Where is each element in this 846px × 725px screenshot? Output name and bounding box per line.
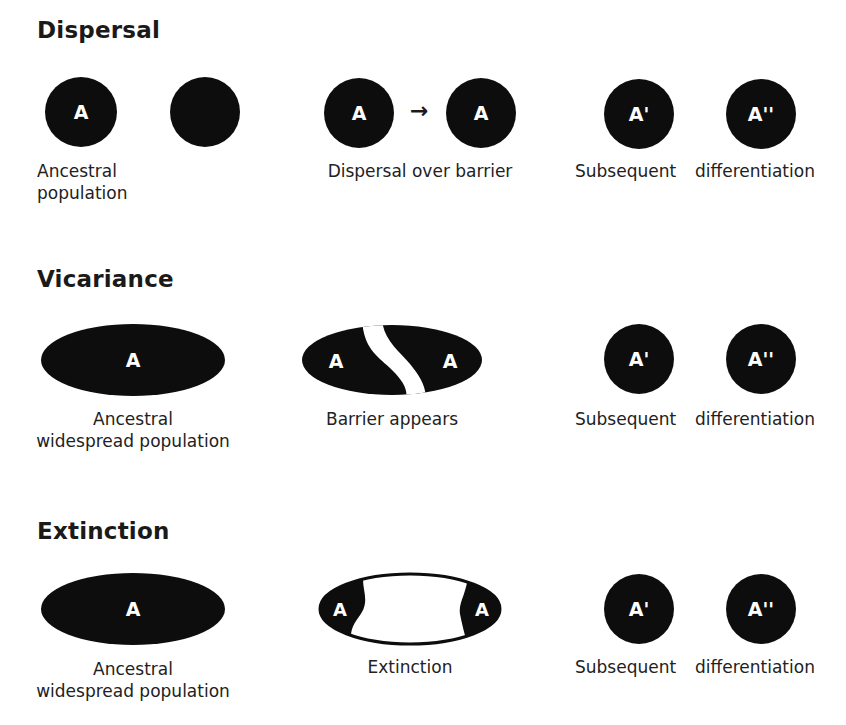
differentiated-a-double-prime-circle: A'' xyxy=(725,78,797,150)
ancestral-widespread-population-ellipse: A xyxy=(40,572,226,646)
svg-text:A: A xyxy=(126,349,141,371)
svg-text:A: A xyxy=(475,599,489,620)
extinction-a-double-prime-circle: A'' xyxy=(725,573,797,645)
label-differentiation: differentiation xyxy=(695,160,815,182)
arrow-right-icon: → xyxy=(410,98,428,123)
svg-text:A: A xyxy=(474,102,489,124)
section-title-extinction: Extinction xyxy=(37,518,170,544)
label-barrier-appears: Barrier appears xyxy=(292,408,492,430)
svg-text:A'': A'' xyxy=(748,598,774,620)
dispersed-population-circle: A xyxy=(445,77,517,149)
label-extinction: Extinction xyxy=(310,656,510,678)
vicariance-a-double-prime-circle: A'' xyxy=(725,323,797,395)
label-ancestral-widespread-population: Ancestral widespread population xyxy=(30,408,236,452)
svg-text:A: A xyxy=(333,599,347,620)
empty-habitat-circle xyxy=(169,76,241,148)
label-ancestral-widespread-population: Ancestral widespread population xyxy=(30,658,236,702)
ancestral-population-circle: A xyxy=(44,76,118,148)
label-subsequent: Subsequent xyxy=(575,656,676,678)
svg-text:A': A' xyxy=(629,103,650,125)
label-ancestral-population: Ancestral population xyxy=(37,160,127,204)
barrier-split-ellipse: A A xyxy=(300,320,484,400)
section-title-dispersal: Dispersal xyxy=(37,17,160,43)
svg-text:A': A' xyxy=(629,348,650,370)
svg-text:A': A' xyxy=(629,598,650,620)
svg-text:A'': A'' xyxy=(748,103,774,125)
svg-text:A: A xyxy=(329,350,344,372)
label-differentiation: differentiation xyxy=(695,656,815,678)
label-subsequent: Subsequent xyxy=(575,160,676,182)
vicariance-a-prime-circle: A' xyxy=(603,323,675,395)
label-subsequent: Subsequent xyxy=(575,408,676,430)
section-title-vicariance: Vicariance xyxy=(37,266,174,292)
svg-text:A'': A'' xyxy=(748,348,774,370)
source-population-circle: A xyxy=(323,77,395,149)
svg-text:A: A xyxy=(352,102,367,124)
node-label: A xyxy=(74,101,89,123)
label-dispersal-over-barrier: Dispersal over barrier xyxy=(320,160,520,182)
svg-text:A: A xyxy=(443,350,458,372)
differentiated-a-prime-circle: A' xyxy=(603,78,675,150)
label-differentiation: differentiation xyxy=(695,408,815,430)
svg-text:A: A xyxy=(126,598,141,620)
extinction-a-prime-circle: A' xyxy=(603,573,675,645)
ancestral-widespread-population-ellipse: A xyxy=(40,323,226,397)
extinction-ellipse: A A xyxy=(318,572,502,646)
